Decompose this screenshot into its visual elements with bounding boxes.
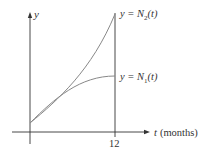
n1-label: y = N1(t) [119,71,158,85]
y-axis-label: y [33,8,39,20]
x-tick-12: 12 [109,138,120,149]
x-axis-arrow-icon [144,130,150,134]
n2-label: y = N2(t) [119,8,158,22]
y-axis-arrow-icon [28,12,32,18]
x-axis-label: t(months) [154,127,198,139]
growth-chart: y y = N2(t) y = N1(t) t(months) 12 [0,0,211,155]
curve-n2 [30,14,115,123]
